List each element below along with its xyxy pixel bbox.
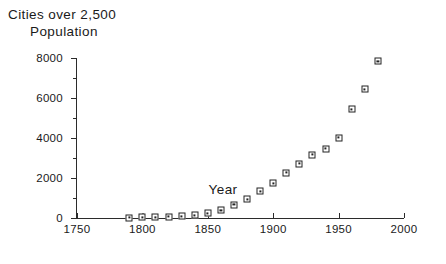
x-axis-title: Year: [209, 182, 238, 197]
data-point-marker: [322, 145, 329, 152]
y-axis-line: [76, 58, 77, 218]
chart-figure: Cities over 2,500 Population 02000400060…: [0, 0, 446, 264]
x-tick-label: 1750: [64, 223, 91, 235]
x-tick-label: 1900: [260, 223, 287, 235]
data-point-marker: [309, 151, 316, 158]
y-tick-minor: [73, 78, 77, 79]
data-point-marker: [374, 58, 381, 65]
chart-title-line-1: Cities over 2,500: [8, 6, 116, 23]
data-point-marker: [139, 214, 146, 221]
data-point-marker: [257, 188, 264, 195]
y-tick-major: 8000: [71, 58, 76, 59]
data-point-marker: [152, 214, 159, 221]
y-tick-major: 4000: [71, 138, 76, 139]
data-point-marker: [270, 180, 277, 187]
data-point-marker: [178, 213, 185, 220]
data-point-marker: [191, 212, 198, 219]
y-tick-label: 2000: [36, 172, 63, 184]
y-tick-major: 0: [71, 218, 76, 219]
y-tick-minor: [73, 158, 77, 159]
plot-area: 02000400060008000 1750180018501900195020…: [77, 58, 404, 218]
y-tick-label: 4000: [36, 132, 63, 144]
chart-title-line-2: Population: [8, 23, 116, 40]
data-point-marker: [361, 86, 368, 93]
x-tick-major: [77, 213, 78, 218]
y-tick-label: 0: [56, 212, 63, 224]
data-point-marker: [230, 201, 237, 208]
x-tick-label: 1950: [325, 223, 352, 235]
y-tick-major: 6000: [71, 98, 76, 99]
x-tick-label: 1800: [129, 223, 156, 235]
x-tick-major: [339, 213, 340, 218]
data-point-marker: [283, 169, 290, 176]
y-tick-major: 2000: [71, 178, 76, 179]
y-tick-minor: [73, 198, 77, 199]
x-tick-major: [404, 213, 405, 218]
data-point-marker: [204, 210, 211, 217]
chart-title: Cities over 2,500 Population: [8, 6, 116, 40]
data-point-marker: [348, 106, 355, 113]
y-tick-label: 6000: [36, 92, 63, 104]
data-point-marker: [217, 207, 224, 214]
data-point-marker: [244, 196, 251, 203]
data-point-marker: [335, 134, 342, 141]
x-tick-major: [273, 213, 274, 218]
data-point-marker: [296, 160, 303, 167]
x-tick-label: 1850: [194, 223, 221, 235]
y-tick-label: 8000: [36, 52, 63, 64]
data-point-marker: [165, 213, 172, 220]
data-point-marker: [126, 214, 133, 221]
x-tick-label: 2000: [391, 223, 418, 235]
y-tick-minor: [73, 118, 77, 119]
